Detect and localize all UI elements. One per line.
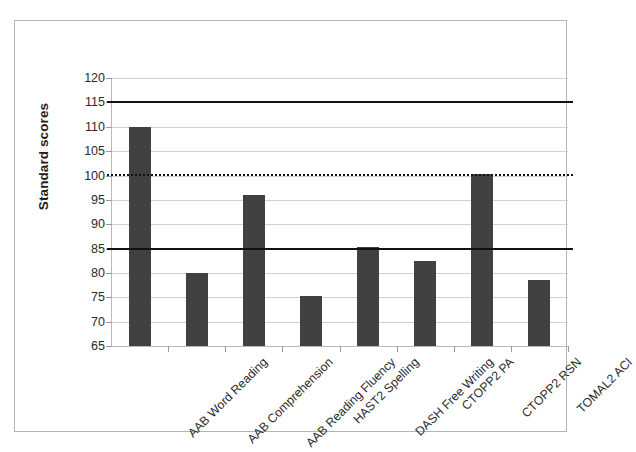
bar[interactable] [357, 247, 379, 346]
gridline-105 [111, 151, 568, 152]
bar[interactable] [129, 127, 151, 346]
y-tick-mark-75 [106, 297, 112, 298]
y-tick-label-115: 115 [65, 96, 105, 109]
y-tick-mark-65 [106, 346, 112, 347]
bar[interactable] [528, 280, 550, 346]
y-tick-label-90: 90 [65, 218, 105, 231]
lower-reference-line [107, 248, 573, 250]
gridline-120 [111, 78, 568, 79]
y-tick-label-120: 120 [65, 72, 105, 85]
y-tick-mark-95 [106, 200, 112, 201]
x-tick-label: CTOPP2 RSN [519, 355, 584, 420]
y-tick-label-65: 65 [65, 340, 105, 353]
y-tick-mark-90 [106, 224, 112, 225]
y-tick-label-85: 85 [65, 243, 105, 256]
x-tick-mark [282, 346, 283, 352]
y-axis-title: Standard scores [36, 72, 51, 242]
plot-area [111, 78, 568, 346]
gridline-95 [111, 200, 568, 201]
x-tick-mark [397, 346, 398, 352]
x-tick-mark [168, 346, 169, 352]
y-tick-labels: 120 115 110 105 100 95 90 85 80 75 70 65 [59, 21, 105, 452]
gridline-110 [111, 127, 568, 128]
y-tick-label-75: 75 [65, 291, 105, 304]
gridline-80 [111, 273, 568, 274]
y-tick-label-105: 105 [65, 145, 105, 158]
y-tick-mark-80 [106, 273, 112, 274]
x-tick-mark [454, 346, 455, 352]
bar[interactable] [186, 273, 208, 346]
y-tick-label-70: 70 [65, 316, 105, 329]
y-axis-line [111, 78, 112, 347]
x-tick-mark [225, 346, 226, 352]
y-tick-mark-110 [106, 127, 112, 128]
gridline-75 [111, 297, 568, 298]
y-tick-mark-120 [106, 78, 112, 79]
y-tick-mark-105 [106, 151, 112, 152]
x-tick-mark [568, 346, 569, 352]
bar[interactable] [414, 261, 436, 346]
y-tick-label-80: 80 [65, 267, 105, 280]
gridline-90 [111, 224, 568, 225]
y-tick-label-95: 95 [65, 194, 105, 207]
bar[interactable] [243, 195, 265, 346]
y-tick-label-110: 110 [65, 121, 105, 134]
x-tick-mark [511, 346, 512, 352]
y-tick-label-100: 100 [65, 170, 105, 183]
upper-reference-line [107, 101, 573, 103]
mean-reference-line [107, 174, 573, 176]
chart-figure: 120 115 110 105 100 95 90 85 80 75 70 65… [14, 20, 567, 432]
bar[interactable] [471, 174, 493, 346]
gridline-70 [111, 322, 568, 323]
x-tick-mark [340, 346, 341, 352]
y-tick-mark-70 [106, 322, 112, 323]
bar[interactable] [300, 296, 322, 346]
